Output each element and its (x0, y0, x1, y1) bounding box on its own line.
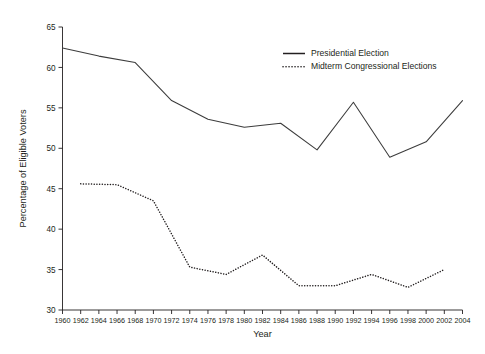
y-tick-label: 60 (46, 64, 56, 73)
y-axis-title: Percentage of Eligible Voters (18, 109, 28, 227)
x-tick-label: 1996 (382, 316, 398, 325)
x-tick-label: 1976 (200, 316, 216, 325)
x-tick-label: 1970 (145, 316, 161, 325)
legend-label-1: Presidential Election (311, 48, 389, 58)
y-tick-label: 35 (46, 266, 56, 275)
x-tick-label: 1986 (291, 316, 307, 325)
x-tick-label: 1982 (255, 316, 271, 325)
chart-legend: Presidential ElectionMidterm Congression… (283, 48, 437, 71)
x-tick-label: 1984 (273, 316, 289, 325)
x-tick-label: 1964 (91, 316, 107, 325)
x-tick-label: 1962 (73, 316, 89, 325)
data-series (63, 48, 463, 287)
x-tick-label: 1994 (364, 316, 380, 325)
x-axis-ticks: 1960196219641966196819701972197419761978… (55, 310, 471, 325)
y-tick-label: 40 (46, 225, 56, 234)
x-tick-label: 1974 (182, 316, 198, 325)
chart-canvas: 3035404550556065 19601962196419661968197… (0, 0, 485, 354)
x-tick-label: 1990 (327, 316, 343, 325)
voter-turnout-chart: 3035404550556065 19601962196419661968197… (0, 0, 485, 354)
y-axis-ticks: 3035404550556065 (46, 23, 62, 315)
x-axis-title: Year (253, 329, 272, 339)
legend-label-2: Midterm Congressional Elections (311, 61, 437, 71)
y-tick-label: 45 (46, 185, 56, 194)
x-tick-label: 1998 (400, 316, 416, 325)
x-tick-label: 1966 (109, 316, 125, 325)
series-line-2 (81, 184, 445, 287)
x-tick-label: 1988 (309, 316, 325, 325)
x-tick-label: 1972 (164, 316, 180, 325)
y-tick-label: 55 (46, 104, 56, 113)
x-tick-label: 1968 (127, 316, 143, 325)
y-tick-label: 65 (46, 23, 56, 32)
x-tick-label: 2004 (455, 316, 471, 325)
x-tick-label: 2002 (436, 316, 452, 325)
y-tick-label: 30 (46, 306, 56, 315)
x-tick-label: 1960 (55, 316, 71, 325)
x-tick-label: 1978 (218, 316, 234, 325)
y-tick-label: 50 (46, 144, 56, 153)
x-tick-label: 2000 (418, 316, 434, 325)
x-tick-label: 1992 (345, 316, 361, 325)
x-tick-label: 1980 (236, 316, 252, 325)
